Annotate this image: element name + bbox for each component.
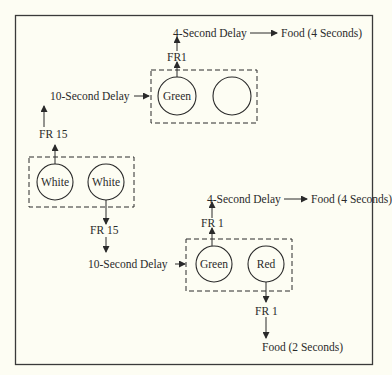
- bottom-red-key-label: Red: [257, 258, 276, 270]
- bottom-delay-label: 4-Second Delay: [207, 193, 281, 205]
- bottom-entry-delay-label: 10-Second Delay: [88, 258, 168, 270]
- bottom-food-label: Food (4 Seconds): [311, 193, 392, 205]
- initial-fr15-up-label: FR 15: [39, 128, 67, 140]
- bottom-green-schedule-label: FR 1: [201, 217, 224, 229]
- white-right-key-label: White: [92, 176, 120, 188]
- initial-fr15-down-label: FR 15: [90, 224, 118, 236]
- top-entry-delay-label: 10-Second Delay: [50, 90, 130, 102]
- top-food-label: Food (4 Seconds): [281, 27, 362, 39]
- bottom-green-key-label: Green: [200, 258, 228, 270]
- red-food-label: Food (2 Seconds): [262, 341, 343, 353]
- outer-frame: [16, 16, 373, 365]
- top-green-key-label: Green: [163, 90, 191, 102]
- red-schedule-label: FR 1: [255, 305, 278, 317]
- top-delay-label: 4-Second Delay: [173, 27, 247, 39]
- top-blank-key: [213, 77, 251, 115]
- white-left-key-label: White: [41, 176, 69, 188]
- top-schedule-label: FR1: [167, 51, 187, 63]
